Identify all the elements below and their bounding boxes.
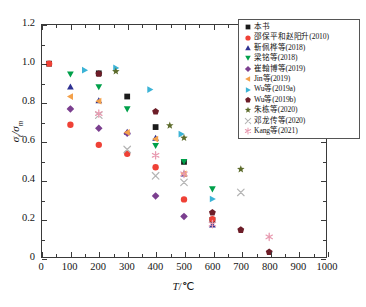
legend-label: Jin等(2019)	[254, 74, 290, 84]
legend-label: 本书	[254, 22, 270, 32]
legend-item-6[interactable]: Wu等(2019a)	[241, 84, 356, 94]
legend: 本书邵保平和赵阳升(2010)靳佩桦等(2018)梁铭等(2018)崔翰博等(2…	[238, 19, 360, 139]
data-point	[238, 189, 245, 196]
x-axis-tick-top	[214, 25, 215, 30]
legend-item-3[interactable]: 梁铭等(2018)	[241, 53, 356, 63]
series-8	[112, 67, 245, 172]
data-point	[152, 152, 158, 159]
x-axis-tick-top	[114, 25, 115, 28]
data-point	[147, 86, 153, 93]
y-axis-sub-m: m	[16, 121, 25, 126]
series-3	[67, 72, 216, 193]
legend-item-7[interactable]: Wu等(2019b)	[241, 95, 356, 105]
legend-label: 邓龙传等(2020)	[254, 116, 305, 126]
legend-label: 朱栋等(2020)	[254, 105, 297, 115]
data-point	[237, 226, 244, 233]
data-point	[181, 196, 187, 202]
data-point	[67, 93, 73, 100]
y-tick-label: 1.0	[1, 56, 35, 67]
series-2	[67, 83, 216, 227]
legend-item-10[interactable]: Kang等(2021)	[241, 126, 356, 136]
legend-marker-icon	[241, 105, 254, 115]
x-axis-tick	[42, 252, 43, 257]
data-point	[95, 84, 102, 90]
legend-marker-icon	[241, 116, 254, 126]
y-axis-title: σt/σm	[9, 97, 24, 167]
data-point	[152, 108, 159, 115]
y-axis-tick-right	[321, 181, 326, 182]
x-axis-tick-top	[142, 25, 143, 28]
y-tick-label: 0.4	[1, 173, 35, 184]
x-tick-label: 1000	[304, 261, 350, 272]
legend-marker-icon	[241, 84, 254, 94]
series-0	[46, 61, 215, 223]
y-axis-tick-right	[321, 220, 326, 221]
legend-marker-icon	[241, 126, 254, 136]
legend-item-1[interactable]: 邵保平和赵阳升(2010)	[241, 32, 356, 42]
legend-item-2[interactable]: 靳佩桦等(2018)	[241, 43, 356, 53]
legend-item-0[interactable]: 本书	[241, 22, 356, 32]
legend-item-4[interactable]: 崔翰博等(2019)	[241, 64, 356, 74]
legend-item-5[interactable]: Jin等(2019)	[241, 74, 356, 84]
y-axis-tick	[42, 142, 47, 143]
x-axis-tick	[56, 254, 57, 257]
x-axis-tick-top	[199, 25, 200, 28]
legend-label: 梁铭等(2018)	[254, 53, 297, 63]
legend-item-8[interactable]: 朱栋等(2020)	[241, 105, 356, 115]
legend-label: 靳佩桦等(2018)	[254, 43, 305, 53]
x-axis-tick-top	[228, 25, 229, 28]
data-point	[237, 165, 245, 172]
x-axis-tick	[114, 254, 115, 257]
x-axis-tick	[199, 254, 200, 257]
data-point	[124, 106, 131, 112]
y-axis-tick-right	[323, 162, 326, 163]
y-axis-tick	[42, 84, 45, 85]
data-point	[95, 124, 103, 132]
x-axis-tick	[128, 252, 129, 257]
data-point	[209, 186, 216, 192]
x-axis-tick	[299, 252, 300, 257]
legend-label: 崔翰博等(2019)	[254, 64, 305, 74]
y-axis-tick-right	[321, 259, 326, 260]
data-point	[112, 67, 120, 74]
legend-marker-icon	[241, 32, 254, 42]
data-point	[67, 105, 75, 113]
legend-item-9[interactable]: 邓龙传等(2020)	[241, 116, 356, 126]
data-point	[67, 72, 74, 78]
y-axis-tick	[42, 45, 45, 46]
x-axis-tick-top	[99, 25, 100, 30]
data-point	[152, 192, 160, 200]
x-axis-tick	[142, 254, 143, 257]
legend-marker-icon	[241, 53, 254, 63]
x-axis-tick	[257, 254, 258, 257]
legend-marker-icon	[241, 43, 254, 53]
data-point	[266, 233, 272, 240]
x-axis-tick	[71, 252, 72, 257]
y-tick-label: 1.2	[1, 17, 35, 28]
data-point	[82, 67, 88, 74]
data-point	[166, 122, 174, 129]
y-tick-label: 0.2	[1, 212, 35, 223]
data-point	[209, 209, 216, 216]
y-axis-tick	[42, 25, 47, 26]
x-axis-tick	[328, 252, 329, 257]
x-axis-tick	[285, 254, 286, 257]
chart-figure: 0100200300400500600700800900100000.20.40…	[0, 0, 366, 307]
y-axis-tick	[42, 103, 47, 104]
data-point	[210, 196, 216, 203]
x-axis-tick	[85, 254, 86, 257]
legend-label: Kang等(2021)	[254, 126, 298, 136]
legend-marker-icon	[241, 22, 254, 32]
data-point	[153, 124, 159, 130]
data-point	[152, 143, 159, 149]
y-axis-tick	[42, 162, 45, 163]
y-tick-label: 0	[1, 251, 35, 262]
legend-label: Wu等(2019a)	[254, 84, 295, 94]
data-point	[152, 173, 159, 180]
legend-label: 邵保平和赵阳升(2010)	[254, 32, 329, 42]
y-axis-tick	[42, 201, 45, 202]
x-axis-tick	[214, 252, 215, 257]
x-axis-tick	[99, 252, 100, 257]
y-axis-tick	[42, 123, 45, 124]
y-axis-tick-right	[323, 240, 326, 241]
